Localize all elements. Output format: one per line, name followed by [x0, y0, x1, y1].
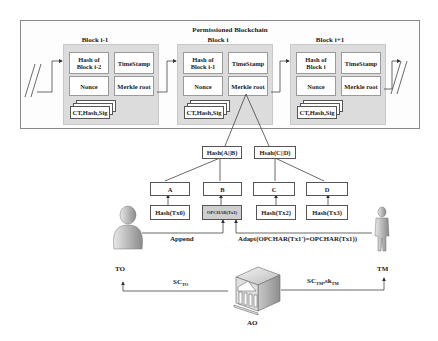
adapt-label: Adapt(OPCHAR(Tx1')=OPCHAR(Tx1)) — [238, 235, 357, 242]
merkle-node-hash-ab[interactable]: Hash(A||B) — [202, 146, 242, 159]
merkle-node-c[interactable]: C — [253, 182, 295, 196]
leaf-opchar-tx1[interactable]: OPCHAR(Tx1) — [202, 205, 242, 220]
actor-tm-label: TM — [377, 265, 388, 273]
connectors — [0, 0, 438, 341]
append-label: Append — [170, 235, 194, 243]
user-icon-tm[interactable] — [372, 206, 392, 252]
actor-ao-label: AO — [247, 319, 258, 327]
sc-tm-sk-label: SCTM,skTM — [307, 277, 339, 286]
leaf-hash-tx3[interactable]: Hash(Tx3) — [306, 205, 348, 220]
leaf-hash-tx2[interactable]: Hash(Tx2) — [256, 205, 296, 220]
merkle-node-d[interactable]: D — [306, 182, 348, 196]
merkle-node-a[interactable]: A — [150, 182, 190, 196]
sc-to-label: SCTO — [173, 278, 188, 287]
leaf-hash-tx0[interactable]: Hash(Tx0) — [150, 205, 190, 220]
merkle-node-hash-cd[interactable]: Hsah(C||D) — [254, 146, 296, 159]
merkle-node-b[interactable]: B — [203, 182, 242, 196]
bank-building-icon-ao[interactable] — [228, 265, 284, 317]
actor-to-label: TO — [115, 265, 125, 273]
user-icon-to[interactable] — [108, 203, 148, 253]
